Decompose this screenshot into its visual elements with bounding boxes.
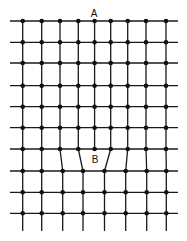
- lattice-column-bend: [146, 149, 147, 171]
- lattice-column-bend: [78, 149, 83, 171]
- lattice-node: [81, 211, 86, 216]
- lattice-node: [81, 169, 86, 174]
- lattice-node: [76, 104, 81, 109]
- lattice-node: [39, 40, 44, 45]
- lattice-node: [164, 104, 169, 109]
- lattice-node: [102, 211, 107, 216]
- label-a: A: [91, 8, 98, 19]
- lattice-node: [76, 40, 81, 45]
- lattice-node: [92, 61, 97, 66]
- lattice-node: [39, 125, 44, 130]
- lattice-node: [92, 147, 97, 152]
- lattice-node: [125, 147, 130, 152]
- lattice-node: [164, 125, 169, 130]
- lattice-node: [58, 104, 63, 109]
- lattice-node: [92, 83, 97, 88]
- lattice-node: [164, 147, 169, 152]
- lattice-node: [92, 19, 97, 24]
- lattice-node: [20, 190, 25, 195]
- lattice-node: [58, 125, 63, 130]
- lattice-node: [164, 83, 169, 88]
- lattice-node: [76, 61, 81, 66]
- lattice-node: [92, 125, 97, 130]
- lattice-node: [108, 83, 113, 88]
- lattice-node: [20, 61, 25, 66]
- lattice-node: [123, 169, 128, 174]
- lattice-node: [125, 40, 130, 45]
- lattice-node: [76, 125, 81, 130]
- lattice-column-bend: [60, 149, 63, 171]
- lattice-column-bend: [126, 149, 128, 171]
- lattice-node: [123, 211, 128, 216]
- lattice-node: [125, 104, 130, 109]
- lattice-node: [164, 19, 169, 24]
- lattice-node: [58, 40, 63, 45]
- lattice-node: [144, 19, 149, 24]
- lattice-node: [20, 104, 25, 109]
- lattice-node: [125, 19, 130, 24]
- lattice-node: [108, 104, 113, 109]
- lattice-node: [144, 104, 149, 109]
- lattice-node: [39, 19, 44, 24]
- lattice-node: [125, 61, 130, 66]
- lattice-node: [58, 61, 63, 66]
- lattice-node: [144, 83, 149, 88]
- lattice-node: [144, 125, 149, 130]
- lattice-node: [39, 104, 44, 109]
- lattice-node: [144, 40, 149, 45]
- lattice-node: [20, 40, 25, 45]
- lattice-node: [164, 40, 169, 45]
- lattice-node: [164, 190, 169, 195]
- lattice-node: [39, 61, 44, 66]
- lattice-node: [39, 169, 44, 174]
- lattice-node: [108, 125, 113, 130]
- lattice-node: [20, 125, 25, 130]
- lattice-node: [123, 190, 128, 195]
- lattice-node: [144, 190, 149, 195]
- lattice-node: [144, 169, 149, 174]
- lattice-node: [108, 40, 113, 45]
- lattice-node: [20, 211, 25, 216]
- lattice-node: [144, 147, 149, 152]
- lattice-node: [58, 147, 63, 152]
- lattice-node: [39, 83, 44, 88]
- lattice-column-bend: [105, 149, 111, 171]
- lattice-node: [20, 147, 25, 152]
- lattice-node: [164, 169, 169, 174]
- lattice-node: [20, 169, 25, 174]
- lattice-node: [58, 83, 63, 88]
- lattice-node: [39, 211, 44, 216]
- lattice-node: [164, 61, 169, 66]
- lattice-node: [60, 211, 65, 216]
- lattice-node: [58, 19, 63, 24]
- lattice-node: [144, 211, 149, 216]
- lattice-node: [60, 190, 65, 195]
- lattice-node: [125, 125, 130, 130]
- lattice-node: [102, 169, 107, 174]
- lattice-node: [60, 169, 65, 174]
- lattice-node: [76, 147, 81, 152]
- lattice-node: [92, 40, 97, 45]
- lattice-node: [144, 61, 149, 66]
- lattice-node: [76, 19, 81, 24]
- lattice-node: [108, 61, 113, 66]
- lattice-node: [20, 83, 25, 88]
- lattice-node: [92, 104, 97, 109]
- lattice-node: [102, 190, 107, 195]
- dislocation-lattice-diagram: A B: [0, 0, 187, 241]
- lattice-node: [20, 19, 25, 24]
- lattice-node: [39, 147, 44, 152]
- lattice-node: [39, 190, 44, 195]
- lattice-node: [164, 211, 169, 216]
- lattice-node: [81, 190, 86, 195]
- lattice-node: [108, 19, 113, 24]
- label-b: B: [92, 154, 99, 165]
- lattice-node: [76, 83, 81, 88]
- lattice-node: [108, 147, 113, 152]
- lattice-node: [125, 83, 130, 88]
